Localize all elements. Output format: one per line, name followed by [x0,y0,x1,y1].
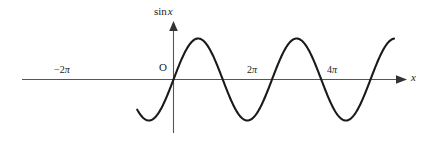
y-axis-label-function: sin [154,5,167,17]
origin-label: O [159,62,167,73]
xtick-label-2pi: 2π [247,65,257,75]
x-axis-arrowhead-icon [396,75,407,84]
y-axis-label-variable: x [167,5,173,17]
x-axis [22,75,407,84]
sine-graph-figure: sinx O −2π 2π 4π x [0,0,429,147]
y-axis-label: sinx [154,6,173,17]
xtick-4pi-pi-symbol: π [332,64,337,75]
xtick-2pi-pi-symbol: π [252,64,257,75]
y-axis-arrowhead-icon [169,21,178,31]
xtick-neg-2pi-pi-symbol: π [65,64,70,75]
x-axis-label: x [411,72,416,83]
xtick-label-4pi: 4π [327,65,337,75]
xtick-label-neg-2pi: −2π [54,65,70,75]
